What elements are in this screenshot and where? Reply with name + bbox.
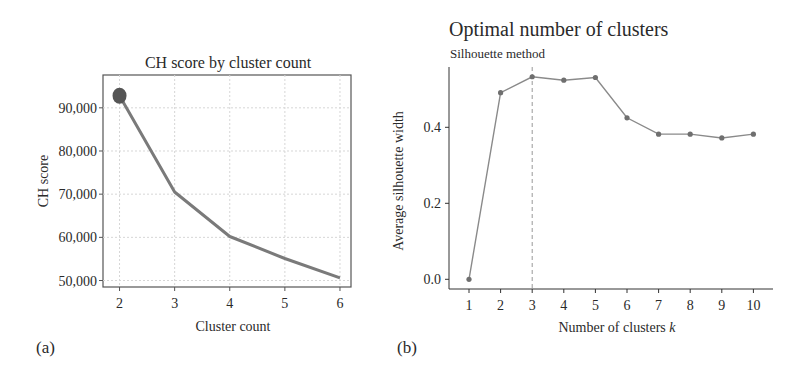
x-tick-label: 2 — [497, 298, 504, 313]
ch-score-chart: CH score by cluster count 50,00060,00070… — [36, 54, 351, 357]
x-tick-label: 3 — [529, 298, 536, 313]
x-axis-label: Cluster count — [195, 319, 270, 334]
y-tick-label: 0.4 — [424, 120, 442, 135]
data-point — [751, 132, 756, 137]
data-point — [719, 135, 724, 140]
y-tick-label: 90,000 — [59, 101, 98, 116]
x-tick-label: 5 — [281, 296, 288, 311]
panel-label-b: (b) — [397, 338, 417, 357]
x-axis-label: Number of clusters k — [558, 320, 676, 335]
panel-label-a: (a) — [36, 338, 55, 357]
figure: CH score by cluster count 50,00060,00070… — [0, 0, 800, 376]
data-point — [498, 90, 503, 95]
x-tick-label: 3 — [171, 296, 178, 311]
x-tick-label: 1 — [466, 298, 473, 313]
data-point — [656, 132, 661, 137]
y-axis-label: Average silhouette width — [391, 111, 406, 251]
x-tick-label: 6 — [336, 296, 343, 311]
highlight-marker — [113, 88, 127, 104]
data-point — [593, 75, 598, 80]
x-tick-label: 4 — [560, 298, 567, 313]
silhouette-chart: Optimal number of clusters Silhouette me… — [391, 18, 773, 357]
x-tick-label: 7 — [655, 298, 662, 313]
silhouette-points — [466, 74, 756, 282]
x-tick-label: 10 — [746, 298, 760, 313]
x-axis-ticks: 23456 — [116, 287, 343, 311]
y-tick-label: 0.2 — [424, 196, 442, 211]
plot-frame — [103, 75, 351, 287]
x-tick-label: 9 — [718, 298, 725, 313]
x-tick-label: 8 — [687, 298, 694, 313]
y-axis-ticks: 50,00060,00070,00080,00090,000 — [59, 101, 104, 289]
x-tick-label: 2 — [116, 296, 123, 311]
y-tick-label: 50,000 — [59, 274, 98, 289]
data-point — [561, 78, 566, 83]
chart-subtitle: Silhouette method — [450, 46, 545, 61]
x-tick-label: 6 — [624, 298, 631, 313]
chart-title: Optimal number of clusters — [449, 18, 669, 41]
y-tick-label: 0.0 — [424, 272, 442, 287]
data-point — [530, 74, 535, 79]
y-tick-label: 70,000 — [59, 187, 98, 202]
y-tick-label: 60,000 — [59, 230, 98, 245]
data-point — [624, 115, 629, 120]
data-point — [466, 277, 471, 282]
data-point — [688, 132, 693, 137]
x-tick-label: 4 — [226, 296, 233, 311]
x-axis-ticks: 12345678910 — [466, 289, 761, 313]
y-axis-label: CH score — [36, 155, 51, 208]
y-axis-ticks: 0.00.20.4 — [424, 120, 450, 287]
chart-title: CH score by cluster count — [145, 54, 312, 72]
silhouette-line — [469, 77, 753, 280]
x-tick-label: 5 — [592, 298, 599, 313]
y-tick-label: 80,000 — [59, 144, 98, 159]
